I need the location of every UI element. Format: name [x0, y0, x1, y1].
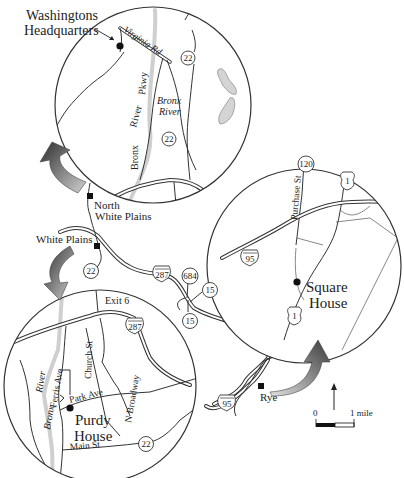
- inset-purdy-house: Purdy House Exit 6 Church St Ferris Ave …: [0, 288, 200, 478]
- rye-marker[interactable]: [258, 383, 264, 389]
- svg-text:22: 22: [142, 439, 151, 449]
- svg-text:22: 22: [87, 266, 96, 276]
- square-house-label-2: House: [309, 295, 348, 311]
- svg-text:684: 684: [183, 271, 197, 281]
- route-22-shield-top-a: 22: [181, 51, 195, 65]
- purdy-house-marker[interactable]: [66, 404, 73, 411]
- washingtons-headquarters-label-1: Washingtons: [26, 8, 98, 23]
- interstate-287-shield-bottom: 287: [126, 318, 144, 334]
- exit-6-label: Exit 6: [105, 295, 129, 306]
- interstate-287-shield-overview: 287: [153, 266, 171, 282]
- svg-text:287: 287: [155, 270, 169, 280]
- bronx-river-label-1: Bronx: [157, 95, 182, 106]
- svg-text:22: 22: [184, 53, 193, 63]
- purdy-house-label-1: Purdy: [75, 412, 111, 428]
- white-plains-label: White Plains: [36, 233, 93, 245]
- route-22-shield-bottom: 22: [139, 437, 154, 452]
- route-22-shield-top-b: 22: [162, 132, 176, 146]
- washingtons-headquarters-label-2: Headquarters: [24, 23, 99, 38]
- washingtons-headquarters-marker[interactable]: [116, 42, 123, 49]
- svg-text:287: 287: [128, 322, 142, 332]
- arrow-to-bottom-inset: [44, 246, 74, 300]
- bronx-pkwy-label: Bronx: [129, 145, 140, 170]
- bronx-river-label-2: River: [158, 106, 181, 117]
- north-white-plains-label-2: White Plains: [95, 210, 152, 222]
- scale-start-label: 0: [313, 408, 318, 418]
- map-legend: 0 1 mile: [313, 383, 373, 427]
- us-route-1-shield-bottom: 1: [288, 307, 302, 325]
- route-684-shield: 684: [182, 268, 198, 284]
- map-canvas: Washingtons Headquarters Virginia Rd Pkw…: [0, 0, 404, 478]
- svg-text:1: 1: [345, 176, 350, 186]
- svg-text:15: 15: [186, 316, 196, 326]
- white-plains-marker[interactable]: [94, 243, 100, 249]
- route-22-shield-overview: 22: [84, 264, 99, 279]
- svg-text:22: 22: [165, 134, 174, 144]
- route-15-shield-a: 15: [203, 283, 218, 298]
- svg-text:15: 15: [206, 285, 216, 295]
- pkwy-label: Pkwy: [136, 72, 149, 96]
- svg-text:1: 1: [292, 311, 297, 321]
- route-15-shield-b: 15: [183, 314, 198, 329]
- church-st-label: Church St: [83, 340, 94, 379]
- square-house-marker[interactable]: [293, 278, 300, 285]
- inset-square-house: Square House Purchase St 120 1 1 95: [205, 156, 404, 365]
- north-arrow-icon: [331, 383, 337, 410]
- us-route-1-shield-top: 1: [341, 172, 355, 190]
- svg-text:120: 120: [299, 159, 313, 169]
- north-white-plains-marker[interactable]: [87, 193, 93, 199]
- route-120-shield: 120: [298, 156, 314, 172]
- scale-end-label: 1 mile: [350, 408, 373, 418]
- scale-bar: 0 1 mile: [313, 408, 373, 427]
- square-house-label-1: Square: [306, 279, 348, 295]
- svg-text:95: 95: [223, 399, 233, 409]
- svg-text:95: 95: [246, 254, 256, 264]
